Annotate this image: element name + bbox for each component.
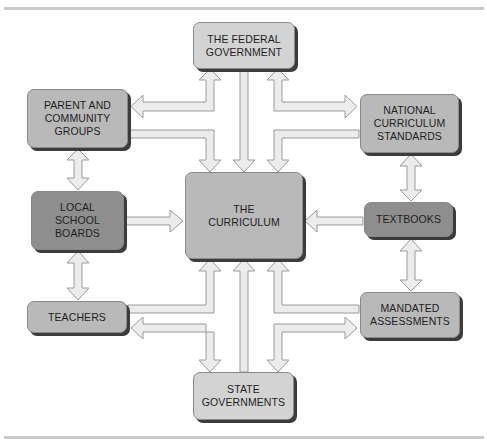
arrow-teachers-to-curriculum (128, 259, 221, 313)
node-label: LOCAL SCHOOL BOARDS (55, 201, 100, 240)
node-the-curriculum: THE CURRICULUM (185, 172, 303, 259)
node-label: THE CURRICULUM (208, 203, 280, 229)
arrow-state-assessments (267, 317, 357, 372)
node-federal-government: THE FEDERAL GOVERNMENT (193, 22, 295, 69)
arrow-local-to-curriculum (125, 210, 183, 232)
node-label: MANDATED ASSESSMENTS (370, 302, 450, 328)
arrow-textbooks-assessments (400, 239, 422, 291)
node-label: STATE GOVERNMENTS (202, 383, 285, 409)
node-mandated-assessments: MANDATED ASSESSMENTS (360, 292, 460, 338)
node-label: PARENT AND COMMUNITY GROUPS (44, 99, 111, 138)
arrow-federal-to-curriculum (233, 69, 255, 172)
node-label: THE FEDERAL GOVERNMENT (206, 33, 282, 59)
arrow-state-to-curriculum (233, 259, 255, 372)
arrow-textbooks-to-curriculum (305, 210, 363, 232)
node-national-curriculum-standards: NATIONAL CURRICULUM STANDARDS (360, 94, 459, 153)
node-label: TEACHERS (48, 311, 106, 324)
node-textbooks: TEXTBOOKS (364, 202, 453, 237)
arrow-parents-to-curriculum (129, 130, 221, 172)
node-label: TEXTBOOKS (376, 213, 441, 226)
node-state-governments: STATE GOVERNMENTS (193, 372, 294, 420)
arrow-local-teachers (67, 251, 89, 300)
node-teachers: TEACHERS (27, 301, 127, 333)
node-local-school-boards: LOCAL SCHOOL BOARDS (31, 191, 124, 250)
arrow-parents-local (67, 149, 89, 190)
arrow-national-textbooks (400, 154, 422, 201)
arrow-assessments-to-curriculum (267, 259, 359, 313)
arrow-federal-national (267, 69, 357, 118)
node-label: NATIONAL CURRICULUM STANDARDS (374, 104, 446, 143)
arrow-state-teachers (131, 317, 221, 372)
arrow-federal-parents (131, 69, 221, 118)
node-parent-community-groups: PARENT AND COMMUNITY GROUPS (27, 89, 128, 148)
arrow-national-to-curriculum (267, 130, 359, 172)
